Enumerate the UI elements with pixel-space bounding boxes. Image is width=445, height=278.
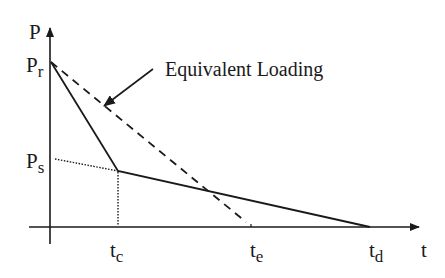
actual-loading-curve xyxy=(51,62,370,227)
tc-label-sub: c xyxy=(116,247,124,266)
pr-label-sub: r xyxy=(38,62,44,81)
ps-label-sub: s xyxy=(38,158,45,177)
x-axis-label: t xyxy=(421,240,427,261)
te-label: te xyxy=(250,240,263,261)
td-label-sub: d xyxy=(375,247,384,266)
equivalent-loading-line xyxy=(51,62,246,222)
tc-label: tc xyxy=(110,240,123,261)
ps-label: Ps xyxy=(26,151,44,172)
pr-label: Pr xyxy=(26,55,43,76)
ps-label-main: P xyxy=(26,149,38,173)
load-time-diagram xyxy=(0,0,445,278)
td-label: td xyxy=(369,240,383,261)
annotation-arrow xyxy=(104,69,153,106)
y-axis-label: P xyxy=(29,22,41,43)
ps-dotted-line xyxy=(55,159,118,171)
equivalent-loading-annotation: Equivalent Loading xyxy=(165,59,323,79)
pr-label-main: P xyxy=(26,53,38,77)
te-label-sub: e xyxy=(256,247,264,266)
